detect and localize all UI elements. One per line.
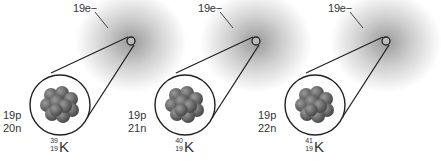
electron-count: 19e− (73, 2, 97, 14)
isotope-symbol: 3919 K (59, 138, 69, 155)
element-symbol: K (59, 138, 69, 155)
mass-number: 40 (175, 137, 183, 144)
element-symbol: K (314, 138, 324, 155)
atomic-number: 19 (305, 145, 313, 152)
neutron-count: 22n (258, 122, 276, 135)
neutron-count: 21n (128, 122, 146, 135)
magnification-lines (0, 0, 138, 161)
neutron-count: 20n (3, 122, 21, 135)
mass-number: 39 (50, 137, 58, 144)
magnification-lines (255, 0, 393, 161)
electron-count: 19e− (198, 2, 222, 14)
magnification-lines (125, 0, 263, 161)
element-symbol: K (184, 138, 194, 155)
proton-count: 19p (3, 109, 21, 122)
atomic-number: 19 (175, 145, 183, 152)
electron-count: 19e− (328, 2, 352, 14)
isotope-panel-k39: 19e− 19p 20n 3919 K (0, 0, 138, 161)
isotope-panel-k41: 19e− 19p 22n 4119 K (255, 0, 393, 161)
isotope-panel-k40: 19e− 19p 21n 4019 K (125, 0, 263, 161)
isotope-symbol: 4119 K (314, 138, 324, 155)
atomic-number: 19 (50, 145, 58, 152)
proton-count: 19p (258, 109, 276, 122)
proton-count: 19p (128, 109, 146, 122)
isotope-symbol: 4019 K (184, 138, 194, 155)
mass-number: 41 (305, 137, 313, 144)
